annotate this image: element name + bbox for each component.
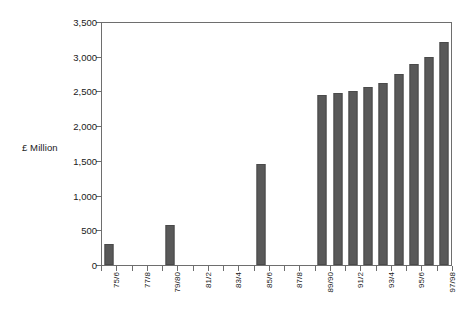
x-tick-label: 97/98 [448, 272, 457, 293]
y-tick-label: 1,000 [73, 190, 97, 201]
x-tick-mark [238, 266, 239, 271]
x-tick-mark [315, 266, 316, 271]
x-tick-mark [193, 266, 194, 271]
x-axis-labels: 75/677/879/8081/283/485/687/889/9091/293… [101, 272, 452, 312]
x-tick-label: 85/6 [265, 272, 274, 288]
bar[interactable] [425, 57, 434, 265]
bar[interactable] [364, 87, 373, 265]
bar-slot [360, 22, 375, 265]
y-tick-label: 500 [81, 225, 97, 236]
bar-slot [162, 22, 177, 265]
x-tick-mark [177, 266, 178, 271]
x-tick-mark [116, 266, 117, 271]
x-tick-label: 91/2 [356, 272, 365, 288]
y-tick-label: 3,500 [73, 17, 97, 28]
y-tick-label: 3,000 [73, 51, 97, 62]
x-tick-mark [391, 266, 392, 271]
x-tick-mark [284, 266, 285, 271]
y-tick-label: 2,500 [73, 86, 97, 97]
bar-slot [421, 22, 436, 265]
x-tick-mark [147, 266, 148, 271]
x-tick-label: 75/6 [112, 272, 121, 288]
x-tick-mark [269, 266, 270, 271]
bar[interactable] [348, 91, 357, 265]
x-tick-mark [406, 266, 407, 271]
x-tick-label: 81/2 [204, 272, 213, 288]
bar[interactable] [333, 93, 342, 265]
bar-slot [391, 22, 406, 265]
y-tick-label: 1,500 [73, 155, 97, 166]
x-tick-mark [437, 266, 438, 271]
x-tick-mark [330, 266, 331, 271]
x-tick-mark [452, 266, 453, 271]
bar-slot [315, 22, 330, 265]
x-tick-label: 83/4 [234, 272, 243, 288]
x-tick-label: 79/80 [173, 272, 182, 293]
bar[interactable] [104, 244, 113, 265]
x-tick-mark [360, 266, 361, 271]
y-axis-title: £ Million [22, 142, 58, 153]
bar-slot [345, 22, 360, 265]
x-tick-label: 87/8 [295, 272, 304, 288]
x-tick-mark [345, 266, 346, 271]
y-tick-label: 2,000 [73, 121, 97, 132]
bar[interactable] [379, 83, 388, 265]
x-tick-mark [132, 266, 133, 271]
x-tick-label: 77/8 [143, 272, 152, 288]
bar-slot [254, 22, 269, 265]
bar[interactable] [409, 64, 418, 265]
bar-slot [406, 22, 421, 265]
bar[interactable] [165, 225, 174, 265]
x-tick-label: 89/90 [326, 272, 335, 293]
bar-slot [101, 22, 116, 265]
x-tick-mark [299, 266, 300, 271]
bar-slot [376, 22, 391, 265]
x-tick-mark [223, 266, 224, 271]
x-tick-mark [208, 266, 209, 271]
bar-chart: £ Million 05001,0001,5002,0002,5003,0003… [0, 0, 468, 313]
x-tick-mark [162, 266, 163, 271]
x-tick-mark [421, 266, 422, 271]
bar-slot [437, 22, 452, 265]
bar[interactable] [440, 42, 449, 265]
x-tick-mark [254, 266, 255, 271]
bar[interactable] [257, 164, 266, 265]
x-axis-ticks [101, 266, 452, 271]
y-tick-label: 0 [92, 260, 97, 271]
bars-area [101, 22, 452, 265]
bar[interactable] [394, 74, 403, 265]
x-tick-mark [101, 266, 102, 271]
x-tick-label: 95/6 [417, 272, 426, 288]
bar[interactable] [318, 95, 327, 265]
bar-slot [330, 22, 345, 265]
x-tick-mark [376, 266, 377, 271]
x-tick-label: 93/4 [387, 272, 396, 288]
